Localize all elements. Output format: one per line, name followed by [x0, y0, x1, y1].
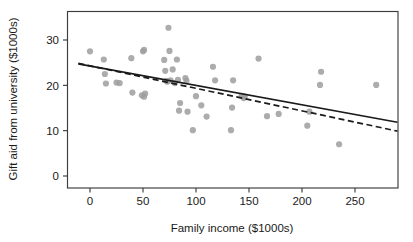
data-point	[230, 77, 236, 83]
scatter-plot-figure: 050100150200250 0102030 Family income ($…	[0, 0, 413, 242]
data-point	[129, 89, 135, 95]
data-point	[336, 141, 342, 147]
data-point	[102, 71, 108, 77]
data-point	[264, 113, 270, 119]
data-point	[204, 114, 210, 120]
data-point	[177, 100, 183, 106]
data-point	[193, 93, 199, 99]
y-tick-label: 10	[46, 125, 59, 137]
data-point	[184, 109, 190, 115]
data-point	[142, 90, 148, 96]
data-point	[228, 127, 234, 133]
data-point	[318, 69, 324, 75]
y-tick-label: 30	[46, 34, 59, 46]
data-point	[165, 25, 171, 31]
y-tick-label: 0	[53, 170, 59, 182]
data-point	[170, 66, 176, 72]
x-tick-label: 200	[292, 195, 311, 207]
scatter-plot-svg: 050100150200250 0102030 Family income ($…	[0, 0, 413, 242]
y-tick-label: 20	[46, 80, 59, 92]
x-tick-label: 50	[137, 195, 150, 207]
data-point	[162, 68, 168, 74]
data-point	[190, 127, 196, 133]
data-point	[304, 123, 310, 129]
data-point	[161, 57, 167, 63]
y-axis-label: Gift aid from university ($1000s)	[7, 17, 19, 180]
data-point	[166, 48, 172, 54]
data-point	[101, 56, 107, 62]
data-point	[103, 80, 109, 86]
data-point	[198, 102, 204, 108]
data-point	[141, 47, 147, 53]
data-point	[210, 64, 216, 70]
data-point	[128, 55, 134, 61]
data-point	[174, 56, 180, 62]
x-tick-label: 0	[87, 195, 93, 207]
data-point	[317, 82, 323, 88]
data-point	[229, 104, 235, 110]
x-tick-label: 100	[186, 195, 205, 207]
x-tick-label: 250	[345, 195, 364, 207]
data-point	[176, 108, 182, 114]
data-point	[276, 111, 282, 117]
x-axis-label: Family income ($1000s)	[171, 222, 294, 234]
data-point	[373, 82, 379, 88]
x-tick-label: 150	[239, 195, 258, 207]
data-point	[212, 77, 218, 83]
data-point	[87, 48, 93, 54]
data-point	[117, 80, 123, 86]
data-point	[255, 55, 261, 61]
